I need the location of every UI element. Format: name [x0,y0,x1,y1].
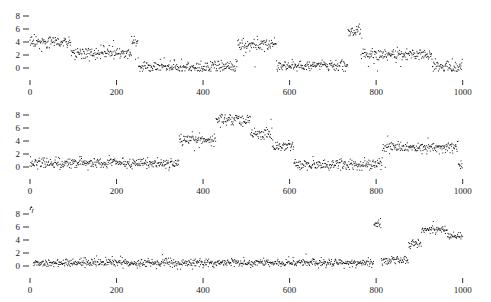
data-point [458,70,459,71]
data-point [153,166,154,167]
data-point [398,261,399,262]
data-point [114,50,115,51]
data-point [239,264,240,265]
data-point [435,145,436,146]
data-point [367,261,368,262]
data-point [125,166,126,167]
data-point [146,164,147,165]
data-point [318,263,319,264]
x-tick-label: 600 [283,285,297,295]
data-point [334,261,335,262]
data-point [343,166,344,167]
data-point [362,166,363,167]
data-point [401,262,402,263]
data-point [373,57,374,58]
data-point [49,36,50,37]
data-point [179,264,180,265]
data-point [133,159,134,160]
data-point [87,261,88,262]
data-point [386,151,387,152]
data-point [169,68,170,69]
data-point [97,159,98,160]
data-point [386,57,387,58]
data-point [36,161,37,162]
data-point [120,161,121,162]
data-point [459,66,460,67]
data-point [50,262,51,263]
data-point [235,120,236,121]
data-point [104,51,105,52]
data-point [162,67,163,68]
data-point [339,159,340,160]
data-point [112,162,113,163]
data-point [287,147,288,148]
data-point [369,53,370,54]
data-point [103,54,104,55]
data-point [175,261,176,262]
data-point [265,262,266,263]
data-point [242,116,243,117]
data-point [62,263,63,264]
data-point [272,139,273,140]
data-point [222,121,223,122]
data-point [103,45,104,46]
data-point [197,263,198,264]
data-point [240,49,241,50]
data-point [411,53,412,54]
data-point [353,169,354,170]
x-tick-label: 800 [369,87,383,97]
data-point [169,167,170,168]
data-point [263,258,264,259]
data-point [130,54,131,55]
data-point [152,262,153,263]
data-point [181,260,182,261]
data-point [413,145,414,146]
data-point [78,262,79,263]
data-point [407,259,408,260]
data-point [376,52,377,53]
data-point [451,235,452,236]
data-point [46,261,47,262]
data-point [125,161,126,162]
data-point [39,41,40,42]
data-point [204,141,205,142]
data-point [247,117,248,118]
data-point [444,146,445,147]
data-point [422,56,423,57]
data-point [297,162,298,163]
data-point [310,262,311,263]
data-point [171,263,172,264]
data-point [162,164,163,165]
data-point [354,263,355,264]
data-point [231,121,232,122]
data-point [327,66,328,67]
data-point [162,259,163,260]
data-point [81,156,82,157]
data-point [152,259,153,260]
data-point [258,136,259,137]
data-point [434,69,435,70]
data-point [53,37,54,38]
data-point [150,161,151,162]
data-point [288,140,289,141]
data-point [101,162,102,163]
data-point [345,168,346,169]
data-point [131,166,132,167]
data-point [389,153,390,154]
data-point [416,51,417,52]
data-point [228,261,229,262]
data-point [74,263,75,264]
data-point [215,64,216,65]
data-point [422,228,423,229]
data-point [237,61,238,62]
data-point [157,68,158,69]
data-point [270,137,271,138]
data-point [231,265,232,266]
data-point [308,64,309,65]
data-point [131,164,132,165]
data-point [123,161,124,162]
data-point [255,131,256,132]
data-point [264,134,265,135]
data-point [66,44,67,45]
data-point [324,261,325,262]
